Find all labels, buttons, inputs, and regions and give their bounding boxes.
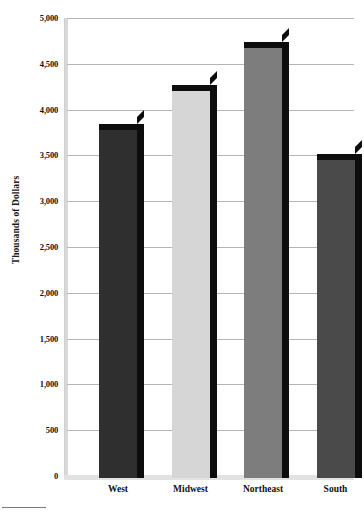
y-tick-label: 3,500 [40, 150, 58, 160]
bar-side-face [282, 42, 289, 478]
y-tick-label: 1,500 [40, 334, 58, 344]
bar-midwest[interactable] [172, 85, 210, 478]
bar-top-bevel [282, 28, 289, 42]
x-category-label-south: South [303, 484, 364, 494]
bar-top-bevel [210, 71, 217, 85]
bar-south[interactable] [317, 154, 355, 478]
plot-area: 5,0004,5004,0003,5003,0002,5002,0001,500… [64, 18, 354, 478]
y-tick-label: 2,000 [40, 288, 58, 298]
y-tick-label: 2,500 [40, 242, 58, 252]
x-category-label-midwest: Midwest [158, 484, 224, 494]
y-tick-label: 3,000 [40, 196, 58, 206]
bar-side-face [355, 154, 362, 478]
bar-group[interactable] [244, 18, 282, 478]
bar-chart-figure: Thousands of Dollars 5,0004,5004,0003,50… [0, 0, 364, 515]
y-axis-title: Thousands of Dollars [11, 160, 21, 280]
bar-group[interactable] [99, 18, 137, 478]
bar-northeast[interactable] [244, 42, 282, 478]
bar-top-face [244, 42, 282, 48]
bar-west[interactable] [99, 124, 137, 478]
bar-top-bevel [355, 140, 362, 154]
y-tick-label: 0 [54, 471, 58, 481]
bar-top-bevel [137, 110, 144, 124]
x-category-label-northeast: Northeast [230, 484, 296, 494]
bar-side-face [137, 124, 144, 478]
bar-group[interactable] [172, 18, 210, 478]
bar-top-face [172, 85, 210, 91]
bar-group[interactable] [317, 18, 355, 478]
bar-top-face [99, 124, 137, 130]
footer-rule [2, 507, 46, 508]
bar-side-face [210, 85, 217, 478]
bar-top-face [317, 154, 355, 160]
x-category-label-west: West [85, 484, 151, 494]
y-tick-label: 4,000 [40, 105, 58, 115]
y-tick-label: 5,000 [40, 13, 58, 23]
y-tick-label: 4,500 [40, 59, 58, 69]
y-tick-label: 1,000 [40, 379, 58, 389]
y-tick-label: 500 [46, 425, 58, 435]
